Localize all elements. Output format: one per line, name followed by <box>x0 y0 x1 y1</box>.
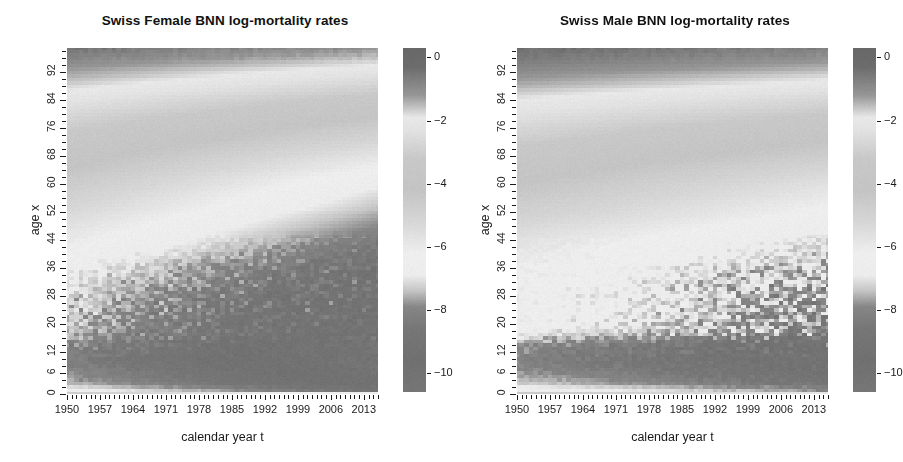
y-tick-minor <box>62 254 66 255</box>
x-tick-label: 1999 <box>280 403 316 415</box>
x-tick-minor <box>119 395 120 399</box>
y-tick-minor <box>62 170 66 171</box>
x-tick-minor <box>378 395 379 399</box>
y-tick-minor <box>512 149 516 150</box>
x-tick-minor <box>114 395 115 399</box>
y-tick-minor <box>512 191 516 192</box>
x-tick-minor <box>293 395 294 399</box>
x-tick-minor <box>673 395 674 399</box>
x-tick-major <box>298 395 299 400</box>
y-tick-label: 76 <box>43 121 59 135</box>
x-tick-minor <box>687 395 688 399</box>
x-tick-minor <box>354 395 355 399</box>
x-tick-minor <box>743 395 744 399</box>
x-tick-major <box>232 395 233 400</box>
x-tick-major <box>331 395 332 400</box>
x-tick-minor <box>555 395 556 399</box>
x-tick-minor <box>213 395 214 399</box>
y-tick-minor <box>62 51 66 52</box>
x-tick-minor <box>701 395 702 399</box>
x-tick-minor <box>109 395 110 399</box>
x-tick-minor <box>307 395 308 399</box>
x-tick-major <box>100 395 101 400</box>
y-tick-minor <box>62 79 66 80</box>
y-tick-major <box>510 268 516 269</box>
x-tick-minor <box>607 395 608 399</box>
y-tick-minor <box>512 310 516 311</box>
heatmap-male <box>517 48 828 394</box>
y-tick-minor <box>512 359 516 360</box>
colorbar-tick-label: 0 <box>884 50 890 62</box>
x-tick-minor <box>762 395 763 399</box>
x-tick-minor <box>545 395 546 399</box>
y-tick-minor <box>62 331 66 332</box>
y-tick-minor <box>512 79 516 80</box>
y-tick-major <box>60 394 66 395</box>
x-tick-minor <box>541 395 542 399</box>
x-tick-minor <box>800 395 801 399</box>
x-tick-minor <box>246 395 247 399</box>
y-tick-minor <box>62 93 66 94</box>
y-tick-minor <box>62 275 66 276</box>
y-tick-major <box>60 352 66 353</box>
heatmap-female <box>67 48 378 394</box>
y-tick-minor <box>512 233 516 234</box>
x-tick-minor <box>536 395 537 399</box>
y-tick-major <box>60 156 66 157</box>
x-tick-minor <box>190 395 191 399</box>
y-tick-label: 68 <box>493 149 509 163</box>
y-tick-minor <box>512 219 516 220</box>
y-tick-label: 84 <box>493 93 509 107</box>
y-tick-minor <box>512 303 516 304</box>
y-tick-minor <box>512 198 516 199</box>
y-tick-minor <box>62 387 66 388</box>
y-tick-major <box>60 128 66 129</box>
y-tick-minor <box>512 107 516 108</box>
x-tick-major <box>265 395 266 400</box>
x-tick-minor <box>828 395 829 399</box>
y-tick-label: 60 <box>493 177 509 191</box>
y-tick-major <box>60 324 66 325</box>
y-tick-major <box>60 240 66 241</box>
x-tick-minor <box>691 395 692 399</box>
x-tick-minor <box>738 395 739 399</box>
x-tick-major <box>133 395 134 400</box>
y-tick-label: 52 <box>43 205 59 219</box>
panel-title-female: Swiss Female BNN log-mortality rates <box>0 13 450 28</box>
x-tick-minor <box>786 395 787 399</box>
x-tick-minor <box>336 395 337 399</box>
x-tick-minor <box>729 395 730 399</box>
colorbar-tick <box>427 57 431 58</box>
y-tick-minor <box>512 86 516 87</box>
x-tick-minor <box>288 395 289 399</box>
colorbar-tick-label: −6 <box>884 240 897 252</box>
y-tick-minor <box>512 65 516 66</box>
x-tick-minor <box>369 395 370 399</box>
x-tick-minor <box>668 395 669 399</box>
y-tick-minor <box>512 275 516 276</box>
x-tick-minor <box>592 395 593 399</box>
x-tick-minor <box>95 395 96 399</box>
y-tick-minor <box>512 380 516 381</box>
y-tick-label: 68 <box>43 149 59 163</box>
x-tick-minor <box>171 395 172 399</box>
panel-female: Swiss Female BNN log-mortality rates 195… <box>0 0 450 462</box>
x-tick-minor <box>804 395 805 399</box>
y-tick-minor <box>512 170 516 171</box>
x-tick-minor <box>574 395 575 399</box>
x-tick-label: 1957 <box>82 403 118 415</box>
x-tick-minor <box>724 395 725 399</box>
x-tick-minor <box>142 395 143 399</box>
y-tick-minor <box>512 135 516 136</box>
y-tick-major <box>60 72 66 73</box>
x-tick-minor <box>640 395 641 399</box>
colorbar-tick <box>427 121 431 122</box>
x-tick-minor <box>710 395 711 399</box>
colorbar-tick <box>877 57 881 58</box>
x-tick-minor <box>767 395 768 399</box>
y-tick-minor <box>512 282 516 283</box>
colorbar-tick-label: −6 <box>434 240 447 252</box>
y-tick-minor <box>62 149 66 150</box>
colorbar-tick <box>877 184 881 185</box>
y-tick-label: 44 <box>493 233 509 247</box>
